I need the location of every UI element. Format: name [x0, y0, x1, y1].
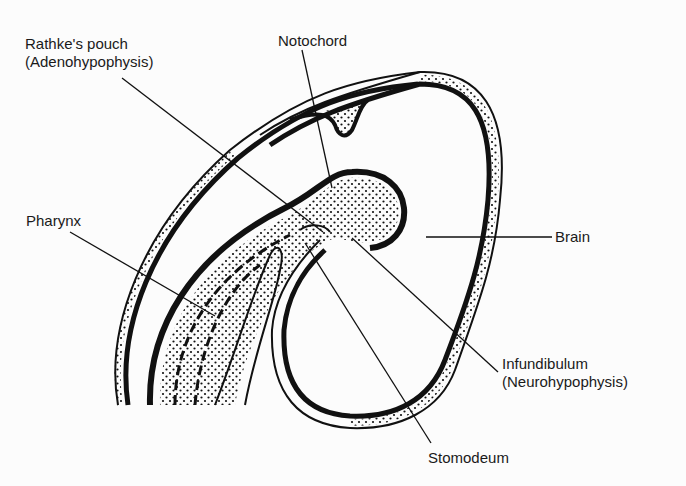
label-pharynx: Pharynx	[26, 212, 81, 230]
label-notochord: Notochord	[278, 32, 347, 50]
label-brain: Brain	[555, 228, 590, 246]
label-rathkes-pouch: Rathke's pouch (Adenohypophysis)	[25, 35, 153, 71]
label-infundibulum: Infundibulum (Neurohypophysis)	[502, 355, 628, 391]
label-stomodeum: Stomodeum	[428, 449, 509, 467]
